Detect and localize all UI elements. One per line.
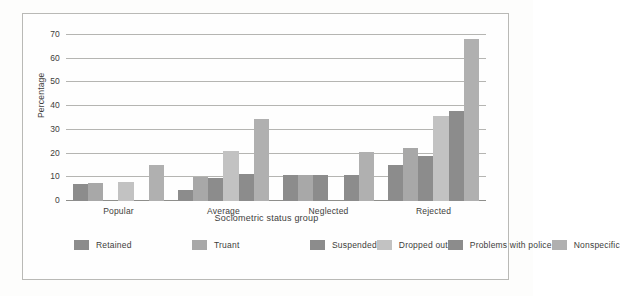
bar-slot [208,35,223,201]
y-axis-title: Percentage [36,73,46,118]
bar [283,175,298,201]
legend-item: Retained [74,236,192,253]
y-tick-label: 0 [55,195,60,205]
bar-slot [313,35,328,201]
legend-swatch [552,240,567,250]
bar [239,174,254,201]
bar-slot [449,35,464,201]
legend-item: Dropped out [377,236,448,253]
bar [313,175,328,201]
bar-slot [118,35,133,201]
bar-slot [178,35,193,201]
y-tick-label: 50 [50,76,60,86]
bar-group: Popular [73,35,165,201]
bar-slot [344,35,359,201]
bar-group-bars [283,35,375,201]
x-axis-title: Sociometric status group [0,213,533,223]
legend-label: Suspended [332,240,377,250]
bar-slot [328,35,343,201]
chart-legend: RetainedTruantSuspendedDropped outProble… [74,236,620,253]
legend-item: Problems with police [448,236,552,253]
legend-label: Dropped out [399,240,448,250]
bar-slot [403,35,418,201]
bar [88,183,103,201]
legend-label: Retained [96,240,132,250]
y-tick-label: 40 [50,100,60,110]
bar [359,152,374,201]
legend-swatch [74,240,89,250]
bar [178,190,193,201]
bar-slot [134,35,149,201]
bar [223,151,238,201]
bar [344,175,359,201]
y-tick-label: 10 [50,171,60,181]
bar-group-bars [178,35,270,201]
bar [298,175,313,201]
bar [193,177,208,201]
bar-slot [283,35,298,201]
bar-group-bars [73,35,165,201]
bar [254,119,269,201]
legend-swatch [377,240,392,250]
y-tick-label: 70 [50,29,60,39]
legend-swatch [448,240,463,250]
bar-slot [149,35,164,201]
legend-label: Nonspecific [574,240,620,250]
bar-group: Average [178,35,270,201]
bar-slot [103,35,118,201]
bar-slot [418,35,433,201]
plot-area: 010203040506070 PopularAverageNeglectedR… [66,35,486,201]
bar-group: Neglected [283,35,375,201]
bar-slot [298,35,313,201]
bar-slot [433,35,448,201]
bar-slot [388,35,403,201]
legend-item: Suspended [310,236,377,253]
y-tick-label: 30 [50,124,60,134]
bar [418,156,433,201]
legend-swatch [192,240,207,250]
bar [403,148,418,201]
bar-slot [359,35,374,201]
bar [464,39,479,201]
bar-slot [73,35,88,201]
legend-item: Truant [192,236,310,253]
bar-slot [254,35,269,201]
bar-slot [223,35,238,201]
bar [388,165,403,201]
bar [73,184,88,201]
bar [433,116,448,201]
bar [208,178,223,201]
legend-swatch [310,240,325,250]
legend-label: Problems with police [470,240,552,250]
bar-slot [239,35,254,201]
bar-group: Rejected [388,35,480,201]
bar [118,182,133,201]
legend-item: Nonspecific [552,236,620,253]
bar-group-bars [388,35,480,201]
bar-slot [88,35,103,201]
legend-label: Truant [214,240,239,250]
bar-slot [464,35,479,201]
bar [149,165,164,201]
y-tick-label: 20 [50,148,60,158]
bar-slot [193,35,208,201]
bar [449,111,464,201]
y-tick-label: 60 [50,53,60,63]
